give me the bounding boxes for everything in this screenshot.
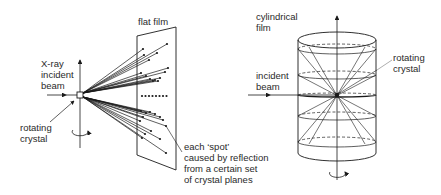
flat-film-diagram — [47, 27, 182, 170]
beam-label-line1: X-ray — [41, 58, 64, 69]
incident-beam-label-line1: incident — [256, 70, 289, 81]
cylindrical-film-diagram — [248, 16, 392, 180]
beam-label-line2: incident — [41, 69, 74, 80]
spot-label-line4: of crystal planes — [184, 174, 253, 185]
rotating-crystal-label-line1: rotating — [393, 52, 425, 63]
beam-label-line3: beam — [41, 80, 65, 91]
flat-film-label: flat film — [138, 16, 168, 27]
spot-leader — [166, 126, 182, 152]
crystal-label-line2: crystal — [20, 133, 47, 144]
crystal-label-line1: rotating — [20, 122, 52, 133]
spot-label-line2: caused by reflection — [184, 152, 269, 163]
cylindrical-film-label-line2: film — [256, 22, 271, 33]
cylindrical-film-label-line1: cylindrical — [256, 11, 298, 22]
rotation-arrow-icon-right — [330, 172, 346, 177]
crystal-square — [77, 92, 83, 98]
spot-label-line1: each ‘spot’ — [184, 141, 229, 152]
incident-beam-label-line2: beam — [256, 81, 280, 92]
diffracted-rays — [83, 44, 168, 153]
rotating-crystal-label-line2: crystal — [393, 63, 420, 74]
spot-label-line3: from a certain set — [184, 163, 257, 174]
crystal-leader — [50, 101, 74, 122]
